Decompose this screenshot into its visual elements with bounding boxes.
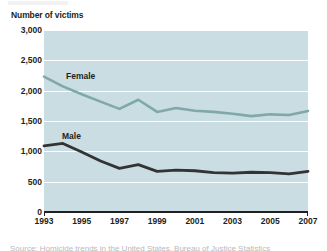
x-tick-label-2007: 2007 bbox=[299, 216, 318, 226]
y-tick-label-2000: 2,000 bbox=[2, 86, 42, 96]
x-axis-left-end-tick bbox=[44, 211, 45, 216]
plot-wrapper: 05001,0001,5002,0002,5003,000 1993199519… bbox=[0, 0, 327, 251]
series-label-female: Female bbox=[66, 71, 95, 81]
x-axis-line bbox=[44, 211, 308, 213]
series-label-male: Male bbox=[62, 131, 81, 141]
x-tick-label-1995: 1995 bbox=[72, 216, 91, 226]
x-tick-label-1997: 1997 bbox=[110, 216, 129, 226]
x-tick-label-1993: 1993 bbox=[35, 216, 54, 226]
victims-line-chart-figure: Number of victims 05001,0001,5002,0002,5… bbox=[0, 0, 327, 251]
x-axis-right-end-tick bbox=[307, 211, 308, 216]
plot-area bbox=[44, 30, 308, 212]
x-tick-label-2001: 2001 bbox=[185, 216, 204, 226]
y-tick-label-1000: 1,000 bbox=[2, 146, 42, 156]
y-tick-label-3000: 3,000 bbox=[2, 25, 42, 35]
y-tick-label-2500: 2,500 bbox=[2, 55, 42, 65]
male-series-line bbox=[44, 143, 308, 173]
cut-off-caption: Source: Homicide trends in the United St… bbox=[10, 244, 310, 251]
y-tick-label-1500: 1,500 bbox=[2, 116, 42, 126]
x-tick-label-1999: 1999 bbox=[148, 216, 167, 226]
x-tick-label-2005: 2005 bbox=[261, 216, 280, 226]
x-tick-label-2003: 2003 bbox=[223, 216, 242, 226]
female-series-line bbox=[44, 77, 308, 116]
series-lines-svg bbox=[44, 30, 308, 212]
y-tick-label-500: 500 bbox=[2, 177, 42, 187]
